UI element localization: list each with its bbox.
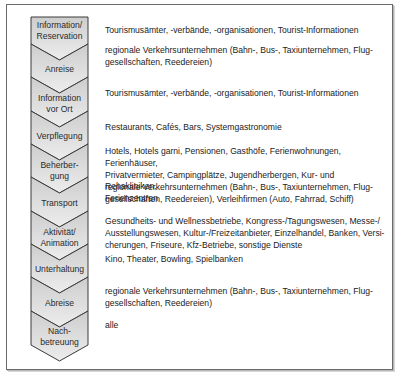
description-line: cherungen, Friseure, Kfz-Betriebe, sonst…	[105, 240, 387, 252]
step-description-6: regionale Verkehrsunternehmen (Bahn-, Bu…	[105, 182, 387, 206]
description-line: regionale Verkehrsunternehmen (Bahn-, Bu…	[105, 45, 387, 57]
step-description-8: Kino, Theater, Bowling, Spielbanken	[105, 254, 387, 266]
step-label-anreise: Anreise	[31, 64, 88, 75]
step-label-line: Unterhaltung	[31, 264, 88, 275]
step-label-line: Information/	[31, 20, 88, 31]
step-label-line: Information	[31, 93, 88, 104]
step-label-information-reservation: Information/ Reservation	[31, 20, 88, 42]
step-description-3: Tourismusämter, -verbände, -organisation…	[105, 88, 387, 100]
step-description-10: alle	[105, 320, 387, 332]
description-line: alle	[105, 320, 387, 332]
description-line: Kino, Theater, Bowling, Spielbanken	[105, 254, 387, 266]
step-label-line: Reservation	[31, 31, 88, 42]
step-label-line: Nach-	[31, 326, 88, 337]
step-label-line: Beherber-	[31, 160, 88, 171]
description-line: Gesundheits- und Wellnessbetriebe, Kongr…	[105, 216, 387, 228]
step-description-4: Restaurants, Cafés, Bars, Systemgastrono…	[105, 122, 387, 134]
step-label-line: gung	[31, 171, 88, 182]
step-label-line: Transport	[31, 198, 88, 209]
description-line: gesellschaften, Reedereien), Verleihfirm…	[105, 194, 387, 206]
step-label-line: Abreise	[31, 298, 88, 309]
description-line: Ausstellungswesen, Kultur-/Freizeitanbie…	[105, 228, 387, 240]
step-label-verpflegung: Verpflegung	[31, 131, 88, 142]
description-line: gesellschaften, Reedereien)	[105, 298, 387, 310]
step-label-information-vor-ort: Information vor Ort	[31, 93, 88, 115]
step-label-line: betreuung	[31, 337, 88, 348]
step-label-line: Aktivität/	[31, 227, 88, 238]
step-description-1: Tourismusämter, -verbände, -organisation…	[105, 25, 387, 37]
step-description-7: Gesundheits- und Wellnessbetriebe, Kongr…	[105, 216, 387, 251]
step-label-line: Anreise	[31, 64, 88, 75]
step-description-9: regionale Verkehrsunternehmen (Bahn-, Bu…	[105, 286, 387, 310]
step-description-2: regionale Verkehrsunternehmen (Bahn-, Bu…	[105, 45, 387, 69]
description-line: Tourismusämter, -verbände, -organisation…	[105, 88, 387, 100]
step-label-unterhaltung: Unterhaltung	[31, 264, 88, 275]
step-label-transport: Transport	[31, 198, 88, 209]
step-label-line: Animation	[31, 238, 88, 249]
step-label-beherbergung: Beherber- gung	[31, 160, 88, 182]
description-line: regionale Verkehrsunternehmen (Bahn-, Bu…	[105, 286, 387, 298]
step-label-line: vor Ort	[31, 104, 88, 115]
description-line: Hotels, Hotels garni, Pensionen, Gasthöf…	[105, 146, 387, 170]
description-line: Restaurants, Cafés, Bars, Systemgastrono…	[105, 122, 387, 134]
step-label-abreise: Abreise	[31, 298, 88, 309]
step-label-aktivitaet-animation: Aktivität/ Animation	[31, 227, 88, 249]
description-line: gesellschaften, Reedereien)	[105, 57, 387, 69]
step-label-nachbetreuung: Nach- betreuung	[31, 326, 88, 348]
description-line: Tourismusämter, -verbände, -organisation…	[105, 25, 387, 37]
step-label-line: Verpflegung	[31, 131, 88, 142]
description-line: regionale Verkehrsunternehmen (Bahn-, Bu…	[105, 182, 387, 194]
